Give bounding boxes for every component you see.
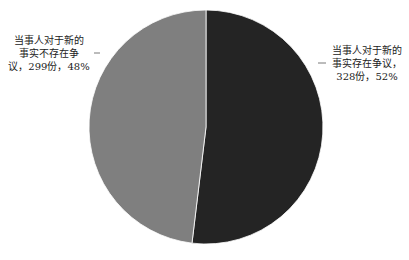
slice-disputed (192, 10, 323, 244)
label-disputed: 当事人对于新的 事实存在争议， 328份，52% (326, 44, 408, 83)
label-line: 当事人对于新的 (6, 34, 92, 47)
slice-not-disputed (89, 10, 206, 243)
label-line: 328份，52% (326, 70, 408, 83)
label-line: 事实不存在争 (6, 47, 92, 60)
label-line: 事实存在争议， (326, 57, 408, 70)
label-line: 当事人对于新的 (326, 44, 408, 57)
label-line: 议，299份，48% (6, 60, 92, 73)
label-not-disputed: 当事人对于新的 事实不存在争 议，299份，48% (6, 34, 92, 73)
pie-chart: 当事人对于新的 事实不存在争 议，299份，48% 当事人对于新的 事实存在争议… (0, 0, 409, 260)
